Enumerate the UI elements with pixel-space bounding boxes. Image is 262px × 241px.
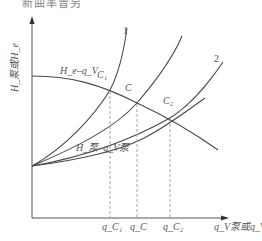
diagram-canvas: 新曲率曾另 H_泵或H_e H_e–q_V H_泵–q_V泵 1 2 C₁ C … [0,0,262,241]
point-c2-label: C₂ [163,96,173,106]
x-tick-q-c: q_C [130,222,147,232]
x-tick-q-c1: q_C₁ [102,222,122,232]
y-axis-arrow-icon [30,16,35,24]
x-axis-arrow-icon [221,216,229,221]
curve-1-label: 1 [123,26,128,36]
diagram-svg [0,0,262,241]
pump-curve-label: H_e–q_V [60,66,98,76]
x-tick-q-c2: q_C₂ [163,222,183,232]
axes [30,16,230,221]
point-c-label: C [125,83,132,93]
x-axis-label: q_V泵或q_V [214,222,262,232]
point-c1-label: C₁ [97,70,107,80]
system-curve-label: H_泵–q_V泵 [76,143,129,153]
y-axis-label: H_泵或H_e [6,43,21,92]
curve-2-label: 2 [214,54,219,64]
system-curve-bottom [32,98,205,166]
